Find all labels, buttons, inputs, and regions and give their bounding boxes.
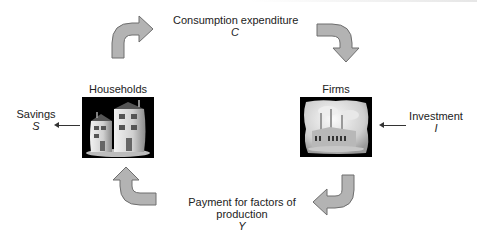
savings-arrow-line: [58, 125, 80, 126]
households-label: Households: [82, 83, 154, 95]
consumption-symbol: C: [173, 26, 297, 38]
consumption-label: Consumption expenditure C: [173, 14, 297, 38]
top-border-line: [250, 0, 477, 2]
investment-text: Investment: [409, 110, 463, 122]
investment-label: Investment I: [408, 110, 464, 134]
firms-label: Firms: [300, 83, 372, 95]
savings-arrowhead-icon: [54, 122, 59, 128]
factory-icon: [300, 97, 372, 157]
curved-arrow-left-up-icon: [112, 166, 157, 206]
firms-image: [300, 97, 372, 157]
investment-arrow-line: [384, 125, 406, 126]
curved-arrow-right-down-icon: [316, 23, 361, 63]
payment-label: Payment for factors of production Y: [176, 196, 308, 232]
payment-text-line1: Payment for factors of: [176, 196, 308, 208]
payment-symbol: Y: [176, 220, 308, 232]
savings-text: Savings: [16, 108, 55, 120]
curved-arrow-down-left-icon: [311, 174, 356, 216]
consumption-text: Consumption expenditure: [173, 14, 298, 26]
curved-arrow-up-right-icon: [110, 15, 155, 60]
investment-symbol: I: [408, 122, 464, 134]
payment-text-line2: production: [176, 208, 308, 220]
households-image: [82, 97, 154, 158]
houses-icon: [82, 97, 154, 158]
investment-arrowhead-icon: [379, 122, 384, 128]
savings-symbol: S: [16, 120, 56, 132]
savings-label: Savings S: [16, 108, 56, 132]
